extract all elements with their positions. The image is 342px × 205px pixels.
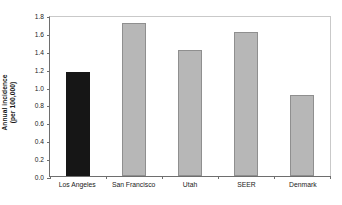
y-axis-tick-label: 1.0	[35, 84, 44, 91]
y-axis-tick-label: 0.0	[35, 174, 44, 181]
x-axis-tick-label: Utah	[162, 179, 218, 197]
y-axis-tick-label: 1.2	[35, 66, 44, 73]
y-axis-title-line-1: Annual incidence	[1, 74, 9, 130]
y-axis-tick-mark	[47, 142, 50, 143]
bar-slot	[50, 17, 106, 176]
bar-los-angeles[interactable]	[66, 72, 90, 176]
y-axis-tick-label: 0.4	[35, 138, 44, 145]
y-axis-tick-label: 1.4	[35, 48, 44, 55]
bar-utah[interactable]	[178, 50, 202, 176]
y-axis-tick-mark	[47, 124, 50, 125]
y-axis-title: Annual incidence (per 100,000)	[0, 0, 18, 205]
y-axis-tick-label: 0.2	[35, 156, 44, 163]
y-axis-tick-labels: 0.00.20.40.60.81.01.21.41.61.8	[22, 16, 44, 177]
x-axis-tick-label: Denmark	[275, 179, 331, 197]
y-axis-tick-label: 1.8	[35, 13, 44, 20]
x-axis-tick-label: Los Angeles	[49, 179, 105, 197]
bars-layer	[50, 17, 330, 176]
y-axis-tick-mark	[47, 106, 50, 107]
bar-denmark[interactable]	[290, 95, 314, 176]
bar-seer[interactable]	[234, 32, 258, 176]
bar-slot	[274, 17, 330, 176]
bar-san-francisco[interactable]	[122, 23, 146, 176]
y-axis-tick-label: 0.6	[35, 120, 44, 127]
bar-slot	[162, 17, 218, 176]
x-axis-tick-label: San Francisco	[105, 179, 161, 197]
y-axis-tick-mark	[47, 71, 50, 72]
plot-area	[49, 16, 331, 177]
x-axis-tick-labels: Los AngelesSan FranciscoUtahSEERDenmark	[49, 179, 331, 197]
y-axis-tick-mark	[47, 89, 50, 90]
y-axis-tick-mark	[47, 53, 50, 54]
y-axis-title-line-2: (per 100,000)	[9, 74, 17, 130]
y-axis-tick-mark	[47, 17, 50, 18]
y-axis-tick-label: 0.8	[35, 102, 44, 109]
bar-chart: Annual incidence (per 100,000) 0.00.20.4…	[0, 0, 342, 205]
x-axis-tick-label: SEER	[218, 179, 274, 197]
y-axis-tick-mark	[47, 160, 50, 161]
bar-slot	[218, 17, 274, 176]
y-axis-tick-label: 1.6	[35, 30, 44, 37]
y-axis-tick-mark	[47, 35, 50, 36]
bar-slot	[106, 17, 162, 176]
